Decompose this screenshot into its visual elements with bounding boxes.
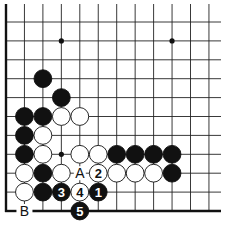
- black-stone: [34, 164, 52, 182]
- star-point: [169, 38, 174, 43]
- black-stone-circle: [163, 164, 181, 182]
- black-stone: [16, 108, 34, 126]
- black-stone-circle: [126, 145, 144, 163]
- white-stone-circle: [52, 164, 70, 182]
- white-stone: [145, 164, 163, 182]
- white-stone-circle: [71, 108, 89, 126]
- point-label-b: B: [20, 203, 29, 219]
- white-stone: [71, 145, 89, 163]
- black-stone: [126, 145, 144, 163]
- white-stone: [108, 164, 126, 182]
- black-stone: [163, 164, 181, 182]
- black-stone-circle: [34, 183, 52, 201]
- black-stone: [52, 89, 70, 107]
- move-number: 3: [58, 185, 65, 200]
- white-stone-circle: [145, 164, 163, 182]
- black-stone-circle: [16, 145, 34, 163]
- go-board: AB 23415: [0, 0, 225, 229]
- black-stone: [34, 108, 52, 126]
- white-stone: [52, 164, 70, 182]
- star-point: [59, 38, 64, 43]
- white-stone-circle: [16, 183, 34, 201]
- white-stone: [16, 164, 34, 182]
- white-stone: [52, 108, 70, 126]
- white-stone-circle: [126, 164, 144, 182]
- move-number: 5: [76, 204, 83, 219]
- move-number: 2: [95, 166, 102, 181]
- white-stone-circle: [89, 145, 107, 163]
- black-stone: [16, 126, 34, 144]
- white-stone: [71, 108, 89, 126]
- white-stone-circle: [16, 164, 34, 182]
- black-stone: [34, 183, 52, 201]
- black-stone-5: 5: [71, 202, 89, 220]
- white-stone-circle: [34, 126, 52, 144]
- black-stone-circle: [34, 164, 52, 182]
- black-stone-circle: [34, 108, 52, 126]
- black-stone-circle: [16, 108, 34, 126]
- black-stone: [108, 145, 126, 163]
- black-stone: [16, 145, 34, 163]
- white-stone-4: 4: [71, 183, 89, 201]
- black-stone-circle: [52, 89, 70, 107]
- star-point: [59, 152, 64, 157]
- white-stone-circle: [108, 164, 126, 182]
- white-stone: [126, 164, 144, 182]
- white-stone-circle: [52, 108, 70, 126]
- white-stone-2: 2: [89, 164, 107, 182]
- move-number: 4: [76, 185, 84, 200]
- move-number: 1: [95, 185, 102, 200]
- black-stone: [145, 145, 163, 163]
- white-stone-circle: [34, 145, 52, 163]
- black-stone-3: 3: [52, 183, 70, 201]
- white-stone: [34, 126, 52, 144]
- black-stone-circle: [145, 145, 163, 163]
- black-stone-circle: [108, 145, 126, 163]
- point-label-a: A: [75, 165, 85, 181]
- white-stone: [16, 183, 34, 201]
- black-stone-1: 1: [89, 183, 107, 201]
- black-stone-circle: [163, 145, 181, 163]
- black-stone-circle: [34, 70, 52, 88]
- black-stone: [163, 145, 181, 163]
- white-stone: [34, 145, 52, 163]
- white-stone: [89, 145, 107, 163]
- white-stone-circle: [71, 145, 89, 163]
- black-stone: [34, 70, 52, 88]
- black-stone-circle: [16, 126, 34, 144]
